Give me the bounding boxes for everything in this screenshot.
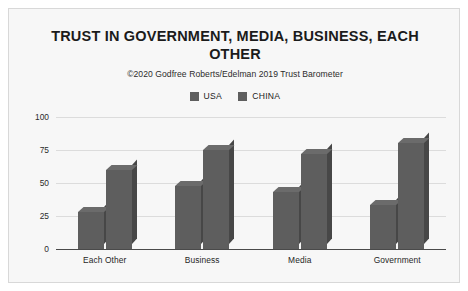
bar-side-face	[132, 159, 137, 244]
bar-usa-each-other	[78, 212, 104, 249]
bar-side-face	[229, 139, 234, 244]
bar-china-each-other	[106, 170, 132, 249]
bar-china-media	[301, 154, 327, 249]
x-axis-category-label: Media	[251, 255, 349, 265]
bar-usa-government	[370, 205, 396, 249]
y-axis-tick-label: 25	[19, 211, 49, 221]
bar-top-face	[78, 207, 110, 212]
chart-subtitle: ©2020 Godfree Roberts/Edelman 2019 Trust…	[31, 69, 439, 79]
bar-front-face	[78, 212, 104, 249]
chart-container: TRUST IN GOVERNMENT, MEDIA, BUSINESS, EA…	[8, 8, 460, 283]
bar-usa-media	[273, 192, 299, 249]
legend-swatch-china	[238, 92, 247, 101]
legend-swatch-usa	[190, 92, 199, 101]
bar-top-face	[106, 165, 138, 170]
legend-label-usa: USA	[204, 91, 223, 101]
legend-label-china: CHINA	[252, 91, 280, 101]
bar-front-face	[273, 192, 299, 249]
bar-front-face	[106, 170, 132, 249]
bar-front-face	[370, 205, 396, 249]
bar-top-face	[175, 181, 207, 186]
x-axis-category-label: Each Other	[56, 255, 154, 265]
y-axis-tick-label: 50	[19, 178, 49, 188]
bar-front-face	[301, 154, 327, 249]
bar-china-government	[398, 143, 424, 249]
legend-item-china: CHINA	[238, 91, 280, 101]
bar-front-face	[203, 150, 229, 249]
bar-front-face	[175, 186, 201, 249]
y-axis-tick-label: 0	[19, 244, 49, 254]
x-axis-category-labels: Each OtherBusinessMediaGovernment	[56, 255, 446, 275]
plot-area: 0255075100 Each OtherBusinessMediaGovern…	[9, 109, 460, 283]
x-axis-category-label: Business	[154, 255, 252, 265]
bar-usa-business	[175, 186, 201, 249]
y-axis-tick-label: 100	[19, 112, 49, 122]
legend-item-usa: USA	[190, 91, 223, 101]
bar-side-face	[424, 133, 429, 244]
y-axis-tick-label: 75	[19, 145, 49, 155]
chart-legend: USA CHINA	[9, 91, 460, 101]
axis-baseline	[56, 249, 446, 250]
bar-front-face	[398, 143, 424, 249]
bar-side-face	[327, 143, 332, 244]
chart-title: TRUST IN GOVERNMENT, MEDIA, BUSINESS, EA…	[31, 27, 439, 63]
x-axis-category-label: Government	[349, 255, 447, 265]
bar-china-business	[203, 150, 229, 249]
bars-layer	[56, 117, 446, 249]
y-axis-tick-labels: 0255075100	[17, 117, 49, 249]
bar-top-face	[301, 149, 333, 154]
